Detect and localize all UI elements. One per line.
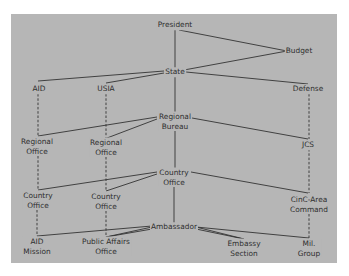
edge-bureau-aid-regional bbox=[38, 117, 157, 136]
label-aid-mission-line2: Mission bbox=[23, 246, 50, 256]
node-aid: AID bbox=[32, 84, 47, 94]
edge-bureau-jcs bbox=[192, 118, 308, 139]
edge-bureau-usia-regional bbox=[107, 119, 157, 138]
label-state: State bbox=[165, 67, 185, 77]
label-aid: AID bbox=[33, 84, 46, 94]
node-country-office-center: Country Office bbox=[158, 168, 189, 187]
label-aid-regional-office-line2: Office bbox=[21, 146, 53, 156]
label-embassy-section-line2: Section bbox=[227, 248, 260, 258]
node-cinc-area-command: CinC-Area Command bbox=[289, 195, 329, 214]
node-ambassador: Ambassador bbox=[150, 222, 198, 232]
node-usia: USIA bbox=[96, 84, 115, 94]
node-aid-regional-office: Regional Office bbox=[20, 137, 54, 156]
label-usia-regional-office-line2: Office bbox=[90, 147, 122, 157]
label-country-office-line2: Office bbox=[159, 177, 188, 187]
node-regional-bureau: Regional Bureau bbox=[158, 112, 192, 131]
node-defense: Defense bbox=[292, 84, 324, 94]
edge-ambassador-embassy-b bbox=[196, 227, 244, 239]
node-state: State bbox=[164, 67, 186, 77]
label-jcs: JCS bbox=[302, 140, 314, 150]
label-defense: Defense bbox=[293, 84, 323, 94]
label-aid-regional-office-line1: Regional bbox=[21, 137, 53, 147]
edge-country-aid-country bbox=[38, 172, 157, 190]
node-usia-regional-office: Regional Office bbox=[89, 138, 123, 157]
edge-state-budget bbox=[184, 51, 287, 70]
label-president: President bbox=[158, 20, 192, 30]
edge-country-usia-country bbox=[106, 174, 157, 191]
label-mil-group-line1: Mil. bbox=[298, 239, 321, 249]
label-cinc-area-command-line1: CinC-Area bbox=[290, 195, 328, 205]
node-jcs: JCS bbox=[301, 140, 315, 150]
label-regional-bureau-line1: Regional bbox=[159, 112, 191, 122]
edge-president-budget bbox=[179, 30, 287, 51]
label-usia-country-office-line2: Office bbox=[91, 201, 120, 211]
label-public-affairs-office-line1: Public Affairs bbox=[82, 237, 130, 247]
edge-state-defense bbox=[186, 72, 308, 84]
edge-country-cinc bbox=[191, 172, 308, 193]
node-mil-group: Mil. Group bbox=[297, 239, 322, 258]
node-embassy-section: Embassy Section bbox=[226, 239, 261, 258]
label-country-office-line1: Country bbox=[159, 168, 188, 178]
node-aid-country-office: Country Office bbox=[22, 191, 53, 210]
label-mil-group-line2: Group bbox=[298, 248, 321, 258]
label-aid-mission-line1: AID bbox=[23, 237, 50, 247]
node-aid-mission: AID Mission bbox=[22, 237, 51, 256]
label-cinc-area-command-line2: Command bbox=[290, 204, 328, 214]
label-budget: Budget bbox=[286, 46, 313, 56]
label-regional-bureau-line2: Bureau bbox=[159, 121, 191, 131]
node-president: President bbox=[157, 20, 193, 30]
label-aid-country-office-line1: Country bbox=[23, 191, 52, 201]
label-public-affairs-office-line2: Office bbox=[82, 246, 130, 256]
label-usia: USIA bbox=[97, 84, 114, 94]
label-usia-regional-office-line1: Regional bbox=[90, 138, 122, 148]
label-usia-country-office-line1: Country bbox=[91, 192, 120, 202]
label-embassy-section-line1: Embassy bbox=[227, 239, 260, 249]
label-aid-country-office-line2: Office bbox=[23, 200, 52, 210]
node-budget: Budget bbox=[285, 46, 314, 56]
label-ambassador: Ambassador bbox=[151, 222, 197, 232]
node-public-affairs-office: Public Affairs Office bbox=[81, 237, 131, 256]
node-usia-country-office: Country Office bbox=[90, 192, 121, 211]
